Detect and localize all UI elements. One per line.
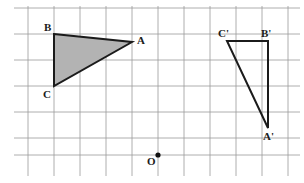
triangle-abc bbox=[54, 34, 132, 86]
geometry-figure: BACC'B'A'O bbox=[0, 0, 304, 183]
triangle-a-prime-b-prime-c-prime bbox=[227, 41, 268, 128]
label-B: B bbox=[44, 22, 51, 33]
origin-point-dot bbox=[155, 152, 160, 157]
label-O: O bbox=[147, 156, 156, 167]
label-C: C bbox=[43, 89, 51, 100]
label-Ap: A' bbox=[263, 131, 274, 142]
label-Bp: B' bbox=[261, 28, 271, 39]
label-A: A bbox=[137, 35, 145, 46]
label-Cp: C' bbox=[218, 28, 229, 39]
